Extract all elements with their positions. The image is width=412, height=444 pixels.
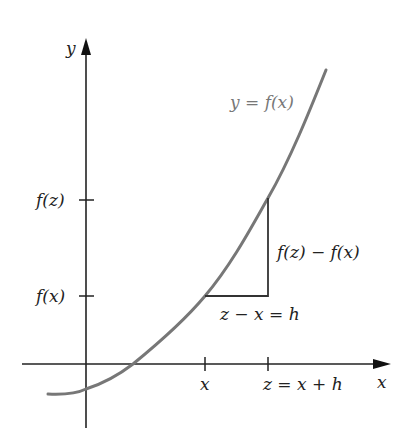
tick-label-fx: f(x) xyxy=(34,286,65,306)
rise-label: f(z) − f(x) xyxy=(275,242,360,262)
run-label: z − x = h xyxy=(219,304,300,324)
y-axis-arrow-icon xyxy=(81,38,91,55)
curve-label: y = f(x) xyxy=(229,92,294,112)
tick-label-x: x xyxy=(200,374,210,394)
tick-label-z: z = x + h xyxy=(262,374,343,394)
diagram-canvas: y x y = f(x) f(z) f(x) x z = x + h f(z) … xyxy=(0,0,412,444)
tick-label-fz: f(z) xyxy=(34,190,65,210)
x-axis-label: x xyxy=(377,372,387,392)
function-curve xyxy=(48,70,326,394)
y-axis-label: y xyxy=(65,38,76,58)
x-axis-arrow-icon xyxy=(373,359,391,369)
